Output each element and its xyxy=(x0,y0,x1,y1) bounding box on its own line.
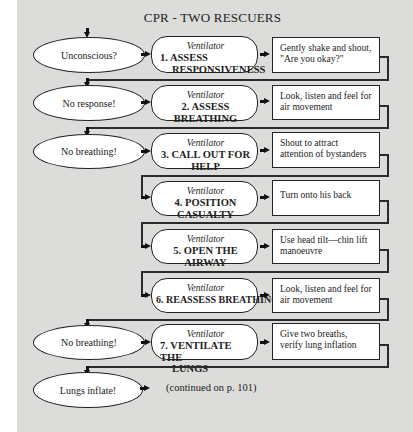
connector-line xyxy=(141,222,389,224)
step-label: 5. OPEN THE AIRWAY xyxy=(160,245,251,268)
condition-label: No breathing! xyxy=(61,337,117,348)
step-tool: Ventilator xyxy=(160,329,251,340)
action-text: Look, listen and feel for xyxy=(280,91,372,102)
arrow-right-icon xyxy=(264,147,270,153)
condition-label: No breathing! xyxy=(61,146,117,157)
condition-no-breathing-2: No breathing! xyxy=(33,325,145,360)
connector-line xyxy=(141,222,143,246)
step-label: 4. POSITION CASUALTY xyxy=(160,197,251,220)
step-7-ventilate-the-lungs: Ventilator 7. VENTILATE THE LUNGS xyxy=(151,324,258,360)
arrow-right-icon xyxy=(264,243,270,249)
step-tool: Ventilator xyxy=(156,283,255,294)
step-4-position-casualty: Ventilator 4. POSITION CASUALTY xyxy=(151,181,258,216)
continuation-note: (continued on p. 101) xyxy=(166,382,256,393)
condition-no-breathing: No breathing! xyxy=(33,134,145,169)
step-tool: Ventilator xyxy=(160,234,251,245)
condition-label: Unconscious? xyxy=(61,50,117,61)
connector-line xyxy=(387,298,389,320)
diagram-title: CPR - TWO RESCUERS xyxy=(140,10,285,26)
connector-line xyxy=(87,127,389,129)
action-box-4: Turn onto his back xyxy=(272,180,380,216)
step-label-line2: LUNGS xyxy=(160,363,251,375)
action-text: Use head tilt—chin lift xyxy=(280,235,372,246)
connector-line xyxy=(387,105,389,128)
action-box-1: Gently shake and shout, "Are you okay?" xyxy=(272,37,380,73)
connector-line xyxy=(87,319,389,321)
step-tool: Ventilator xyxy=(160,186,251,197)
step-tool: Ventilator xyxy=(160,41,251,52)
action-text: Shout to attract xyxy=(280,138,372,149)
action-text: Look, listen and feel for xyxy=(280,284,372,295)
connector-line xyxy=(387,200,389,223)
step-label: 1. ASSESS xyxy=(160,52,251,64)
connector-line xyxy=(141,271,389,273)
connector-line xyxy=(87,366,389,368)
action-text: verify lung inflation xyxy=(280,340,372,351)
step-5-open-the-airway: Ventilator 5. OPEN THE AIRWAY xyxy=(151,229,258,264)
step-2-assess-breathing: Ventilator 2. ASSESS BREATHING xyxy=(151,85,258,121)
action-text: air movement xyxy=(280,295,372,306)
action-text: air movement xyxy=(280,102,372,113)
connector-line xyxy=(387,249,389,272)
step-label: 7. VENTILATE THE xyxy=(160,340,251,363)
step-3-call-out-for-help: Ventilator 3. CALL OUT FOR HELP xyxy=(151,133,258,169)
step-label: 3. CALL OUT FOR HELP xyxy=(160,149,251,172)
condition-label: No response! xyxy=(62,98,115,109)
connector-line xyxy=(387,344,389,367)
connector-line xyxy=(387,56,389,80)
step-1-assess-responsiveness: Ventilator 1. ASSESS RESPONSIVENESS xyxy=(151,36,258,73)
connector-line xyxy=(87,79,389,81)
condition-no-response: No response! xyxy=(33,85,145,121)
action-text: attention of bystanders xyxy=(280,149,372,160)
arrow-right-icon xyxy=(144,385,150,391)
step-tool: Ventilator xyxy=(160,138,251,149)
action-text: manoeuvre xyxy=(280,246,372,257)
connector-line xyxy=(141,175,389,177)
arrow-right-icon xyxy=(264,98,270,104)
condition-label: Lungs inflate! xyxy=(60,385,116,396)
step-tool: Ventilator xyxy=(160,90,251,101)
action-box-2: Look, listen and feel for air movement xyxy=(272,85,380,120)
action-box-3: Shout to attract attention of bystanders xyxy=(272,132,380,168)
arrow-right-icon xyxy=(264,194,270,200)
arrow-right-icon xyxy=(264,339,270,345)
action-box-5: Use head tilt—chin lift manoeuvre xyxy=(272,229,380,264)
action-box-7: Give two breaths, verify lung inflation xyxy=(272,323,380,360)
action-text: Give two breaths, xyxy=(280,329,372,340)
condition-lungs-inflate: Lungs inflate! xyxy=(33,372,143,408)
step-label: 2. ASSESS BREATHING xyxy=(160,101,251,124)
action-text: Turn onto his back xyxy=(280,190,372,201)
action-text: "Are you okay?" xyxy=(280,54,372,65)
connector-line xyxy=(387,154,389,176)
action-box-6: Look, listen and feel for air movement xyxy=(272,278,380,313)
condition-unconscious: Unconscious? xyxy=(33,37,145,73)
action-text: Gently shake and shout, xyxy=(280,43,372,54)
step-label: 6. REASSESS BREATHING xyxy=(156,294,255,306)
arrow-right-icon xyxy=(264,292,270,298)
step-label-line2: RESPONSIVENESS xyxy=(160,64,251,76)
arrow-right-icon xyxy=(264,51,270,57)
connector-line xyxy=(141,271,143,295)
step-6-reassess-breathing: Ventilator 6. REASSESS BREATHING xyxy=(151,278,258,313)
